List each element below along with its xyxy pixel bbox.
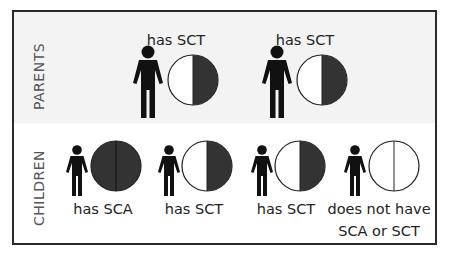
child-1-label: has SCA	[73, 202, 133, 217]
child-2-label: has SCT	[165, 202, 223, 217]
child-1-allele-circle-icon	[91, 141, 141, 191]
child-4-label-line1: does not have	[327, 202, 430, 217]
child-1-figure-icon	[66, 145, 88, 196]
child-2-figure-icon	[158, 145, 180, 196]
parent-2-allele-circle-icon	[297, 55, 347, 105]
child-3-allele-circle-icon	[275, 141, 325, 191]
child-3-label: has SCT	[257, 202, 315, 217]
parent-2-figure-icon	[262, 46, 292, 119]
parent-1-allele-circle-icon	[168, 55, 218, 105]
child-2-allele-circle-icon	[182, 141, 232, 191]
parent-1-figure-icon	[133, 46, 163, 119]
child-4-allele-circle-icon	[369, 141, 419, 191]
child-4-label-line2: SCA or SCT	[338, 224, 420, 239]
child-3-figure-icon	[251, 145, 273, 196]
parent-1-label: has SCT	[147, 33, 205, 48]
parent-2-label: has SCT	[276, 33, 334, 48]
child-4-figure-icon	[344, 145, 366, 196]
